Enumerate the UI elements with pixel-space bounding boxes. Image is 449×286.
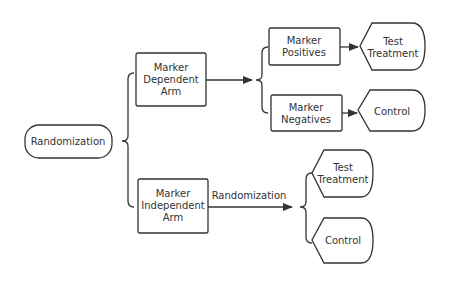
control-bottom-label: Control [325,235,361,246]
negatives-label-2: Negatives [281,114,331,125]
dependent-arm-label-2: Dependent [143,74,199,85]
positives-label-2: Positives [282,47,326,58]
marker-negatives-node [271,95,342,131]
independent-arm-label-1: Marker [156,188,191,199]
test-treatment-bottom-label-1: Test [332,162,353,173]
dependent-arm-label-1: Marker [154,62,189,73]
control-top-label: Control [374,106,410,117]
trial-design-diagram: Randomization Marker Dependent Arm Marke… [0,0,449,286]
test-treatment-top-label-2: Treatment [367,48,419,59]
independent-arm-label-2: Independent [141,200,204,211]
independent-arm-label-3: Arm [163,212,184,223]
root-brace [122,73,134,207]
dependent-arm-label-3: Arm [161,86,182,97]
independent-brace [300,173,312,243]
positives-label-1: Marker [287,35,322,46]
dependent-brace [256,47,268,113]
root-label: Randomization [31,136,106,147]
negatives-label-1: Marker [289,102,324,113]
test-treatment-top-label-1: Test [382,36,403,47]
test-treatment-bottom-label-2: Treatment [317,174,369,185]
independent-edge-label: Randomization [212,190,287,201]
